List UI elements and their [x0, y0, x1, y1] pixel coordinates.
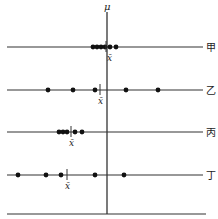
xbar-label: x̄: [107, 53, 112, 63]
sample-rows: x̄甲x̄乙x̄丙x̄丁: [7, 41, 216, 191]
sample-dot: [73, 130, 78, 135]
xbar-label: x̄: [98, 96, 103, 106]
xbar-label: x̄: [65, 181, 70, 191]
row-1: x̄甲: [7, 41, 216, 63]
sample-dot: [124, 88, 129, 93]
row-4: x̄丁: [7, 169, 216, 191]
sample-dot: [93, 173, 98, 178]
sample-dot: [80, 130, 85, 135]
sample-dot: [93, 88, 98, 93]
sample-dot: [122, 173, 127, 178]
sample-dot: [44, 173, 49, 178]
sample-dot: [65, 130, 70, 135]
row-name: 丁: [206, 170, 216, 181]
mu-axis: μ: [104, 1, 111, 214]
row-2: x̄乙: [7, 84, 216, 106]
sample-dot: [156, 88, 161, 93]
sample-dot: [59, 173, 64, 178]
xbar-label: x̄: [69, 138, 74, 148]
confidence-interval-diagram: μ x̄甲x̄乙x̄丙x̄丁: [0, 0, 218, 219]
sample-dot: [114, 45, 119, 50]
row-name: 甲: [206, 42, 216, 53]
row-name: 乙: [206, 85, 216, 96]
sample-dot: [16, 173, 21, 178]
sample-dot: [103, 45, 108, 50]
row-name: 丙: [206, 127, 216, 138]
sample-dot: [108, 45, 113, 50]
sample-dot: [46, 88, 51, 93]
mu-label: μ: [104, 1, 111, 12]
sample-dot: [71, 88, 76, 93]
row-3: x̄丙: [7, 126, 216, 148]
